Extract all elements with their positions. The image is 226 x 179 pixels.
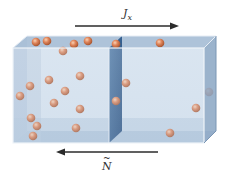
flux-subscript: x <box>127 13 132 22</box>
particle <box>32 38 41 47</box>
arrow-head-right-icon <box>170 23 179 30</box>
particle <box>84 37 93 46</box>
box-right-face <box>204 36 216 143</box>
diagram-canvas <box>0 0 226 179</box>
box-front <box>13 36 216 143</box>
particle <box>43 37 52 46</box>
particle <box>112 40 121 49</box>
box-front-face <box>13 48 204 143</box>
particle <box>70 40 79 49</box>
flux-label: Jx <box>123 7 132 22</box>
flux-arrow <box>75 23 179 30</box>
diagram: Jx ~ N <box>0 0 226 179</box>
particle-count-label: ~ N <box>102 160 112 173</box>
particle-count-accent: ~ <box>103 153 111 163</box>
arrow-head-left-icon <box>56 149 65 156</box>
particle <box>156 39 165 48</box>
